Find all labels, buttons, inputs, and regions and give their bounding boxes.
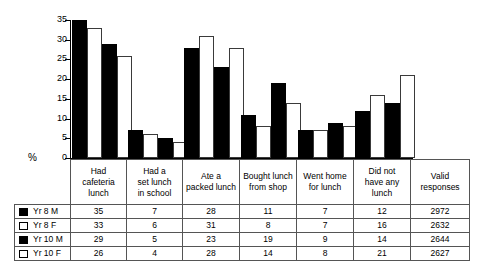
column-header: Ate apacked lunch [183, 160, 240, 205]
bar [298, 130, 313, 158]
column-header: Hadcafeterialunch [71, 160, 127, 205]
bar [241, 115, 256, 158]
y-tick-label: 10 [49, 113, 67, 124]
bar [72, 20, 87, 158]
data-table: HadcafeterialunchHad aset lunchin school… [14, 159, 470, 261]
column-header-line: for lunch [297, 182, 353, 193]
table-cell: 16 [354, 219, 411, 233]
table-cell: 14 [240, 247, 297, 261]
table-cell: 28 [183, 205, 240, 219]
column-header-line: Bought lunch [240, 171, 296, 182]
column-header-line: from shop [240, 182, 296, 193]
data-table-wrapper: HadcafeterialunchHad aset lunchin school… [14, 159, 469, 261]
table-cell: 26 [71, 247, 127, 261]
bar [102, 44, 117, 158]
bar [128, 130, 143, 158]
column-header: Bought lunchfrom shop [240, 160, 297, 205]
bar [385, 103, 400, 158]
column-header-line: set lunch [127, 177, 182, 188]
y-tick-label: 30 [49, 34, 67, 45]
y-tick-label: 35 [49, 14, 67, 25]
table-cell: 12 [354, 205, 411, 219]
table-cell: 7 [127, 205, 183, 219]
table-header-row: HadcafeterialunchHad aset lunchin school… [15, 160, 470, 205]
table-cell: 35 [71, 205, 127, 219]
legend-entry: Yr 10 M [15, 233, 71, 247]
bar [256, 126, 271, 158]
column-header: Validresponses [411, 160, 470, 205]
bar [271, 83, 286, 158]
column-header-line: lunch [354, 188, 410, 199]
column-header-line: in school [127, 188, 182, 199]
y-tick-label: 20 [49, 73, 67, 84]
legend-label: Yr 8 F [33, 220, 56, 231]
bar-group [241, 20, 301, 158]
table-cell: 21 [354, 247, 411, 261]
bar [328, 123, 343, 158]
legend-swatch-icon [19, 236, 28, 244]
column-header-line: Valid [411, 171, 469, 182]
column-header-line: Went home [297, 171, 353, 182]
table-cell: 2644 [411, 233, 470, 247]
bar [214, 67, 229, 158]
bar [143, 134, 158, 158]
table-cell: 9 [297, 233, 354, 247]
table-cell: 4 [127, 247, 183, 261]
table-cell: 2972 [411, 205, 470, 219]
bar [87, 28, 102, 158]
bar [313, 130, 328, 158]
column-header-line: responses [411, 182, 469, 193]
table-cell: 7 [297, 205, 354, 219]
legend-swatch-icon [19, 250, 28, 258]
legend-entry: Yr 8 F [15, 219, 71, 233]
legend-label: Yr 10 M [33, 234, 63, 245]
bar [199, 36, 214, 158]
table-cell: 8 [240, 219, 297, 233]
bar [370, 95, 385, 158]
table-row: Yr 8 F3363187162632 [15, 219, 470, 233]
column-header-line: Did not [354, 166, 410, 177]
legend-label: Yr 10 F [33, 248, 61, 259]
column-header-line: Had [71, 166, 126, 177]
legend-swatch-icon [19, 208, 28, 216]
table-row: Yr 10 F26428148212627 [15, 247, 470, 261]
bar [158, 138, 173, 158]
column-header: Went homefor lunch [297, 160, 354, 205]
table-cell: 2632 [411, 219, 470, 233]
table-cell: 29 [71, 233, 127, 247]
bar-group [355, 20, 415, 158]
column-header: Did nothave anylunch [354, 160, 411, 205]
table-cell: 8 [297, 247, 354, 261]
table-cell: 23 [183, 233, 240, 247]
legend-entry: Yr 10 F [15, 247, 71, 261]
legend-label: Yr 8 M [33, 206, 58, 217]
bar [400, 75, 415, 158]
table-cell: 11 [240, 205, 297, 219]
column-header-line: lunch [71, 188, 126, 199]
column-header-line: Had a [127, 166, 182, 177]
plot-area: 05101520253035 [70, 20, 413, 159]
bar-group [184, 20, 244, 158]
bar [184, 48, 199, 158]
y-tick-label: 5 [49, 132, 67, 143]
table-cell: 6 [127, 219, 183, 233]
column-header-line: packed lunch [183, 182, 239, 193]
bar-group [298, 20, 358, 158]
bar [355, 111, 370, 158]
column-header-line: have any [354, 177, 410, 188]
bar-group [128, 20, 188, 158]
chart-figure: 05101520253035 % HadcafeterialunchHad as… [0, 0, 483, 263]
table-cell: 7 [297, 219, 354, 233]
y-tick-label: 15 [49, 93, 67, 104]
table-row: Yr 8 M35728117122972 [15, 205, 470, 219]
column-header-line: cafeteria [71, 177, 126, 188]
column-header-line: Ate a [183, 171, 239, 182]
legend-entry: Yr 8 M [15, 205, 71, 219]
column-header: Had aset lunchin school [127, 160, 183, 205]
table-cell: 28 [183, 247, 240, 261]
table-cell: 2627 [411, 247, 470, 261]
table-cell: 19 [240, 233, 297, 247]
table-cell: 31 [183, 219, 240, 233]
legend-swatch-icon [19, 222, 28, 230]
table-corner-blank [15, 160, 71, 205]
